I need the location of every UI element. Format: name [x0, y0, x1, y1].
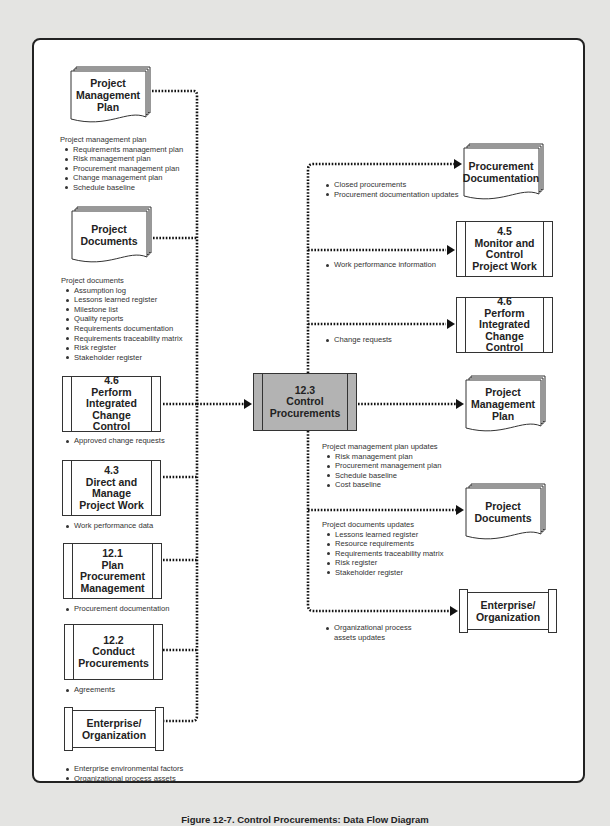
process-title: 4.6 Perform Integrated Change Control [73, 377, 150, 431]
process-title: 12.1 Plan Procurement Management [74, 544, 151, 598]
label-list-item: Schedule baseline [327, 471, 441, 481]
document-title: Project Management Plan [465, 380, 541, 428]
label-list: Approved change requests [62, 436, 165, 446]
label-list: Agreements [62, 685, 115, 695]
output-label-change-requests: Change requests [322, 335, 392, 345]
label-list: Work performance information [322, 260, 436, 270]
label-list-item: Risk management plan [65, 154, 183, 164]
label-list-item: Change management plan [65, 173, 183, 183]
label-list-item: Requirements documentation [66, 324, 182, 334]
document-title: Project Documents [465, 488, 541, 536]
central-process-control-procurements: 12.3 Control Procurements [253, 373, 357, 431]
label-heading: Project documents updates [322, 520, 443, 530]
label-list-item: Risk management plan [327, 452, 441, 462]
label-list-item: Lessons learned register [327, 530, 443, 540]
entity-title: Enterprise/ Organization [469, 589, 547, 633]
label-list-item: Procurement documentation updates [326, 190, 459, 200]
label-list: Lessons learned registerResource require… [322, 530, 443, 578]
input-project-management-plan: Project Management Plan [70, 65, 150, 125]
label-heading: Project management plan updates [322, 442, 441, 452]
label-list-item: Schedule baseline [65, 183, 183, 193]
process-title: 4.3 Direct and Manage Project Work [73, 461, 150, 515]
entity-title: Enterprise/ Organization [74, 707, 154, 751]
input-label-enterprise-factors: Enterprise environmental factorsOrganiza… [62, 764, 183, 783]
label-list-item: Milestone list [66, 305, 182, 315]
label-heading: Project management plan [60, 135, 183, 145]
label-list-item: Cost baseline [327, 480, 441, 490]
input-label-procurement-documentation: Procurement documentation [62, 604, 169, 614]
label-list-item: Quality reports [66, 314, 182, 324]
label-list-item: Requirements management plan [65, 145, 183, 155]
central-process-label: 12.3 Control Procurements [270, 385, 341, 420]
label-list: Assumption logLessons learned registerMi… [61, 286, 182, 363]
output-project-management-plan: Project Management Plan [465, 374, 545, 434]
label-list-item: Work performance information [326, 260, 436, 270]
label-list-item: Change requests [326, 335, 392, 345]
output-label-organizational-process-assets-updates: Organizational process assets updates [322, 623, 412, 642]
output-enterprise-organization: Enterprise/ Organization [459, 589, 557, 633]
label-list-item: Closed procurements [326, 180, 459, 190]
label-list: Requirements management planRisk managem… [60, 145, 183, 193]
label-list-item: Organizational process assets [66, 774, 183, 784]
input-process-conduct-procurements: 12.2 Conduct Procurements [64, 624, 163, 680]
output-process-perform-integrated-change-control: 4.6 Perform Integrated Change Control [456, 297, 553, 353]
output-label-project-management-plan-updates: Project management plan updatesRisk mana… [322, 442, 441, 490]
input-label-approved-change-requests: Approved change requests [62, 436, 165, 446]
document-title: Project Management Plan [70, 71, 146, 119]
central-process-title: 12.3 Control Procurements [264, 374, 346, 430]
input-label-project-management-plan: Project management planRequirements mana… [60, 135, 183, 193]
document-title: Project Documents [71, 211, 147, 259]
input-process-perform-integrated-change-control: 4.6 Perform Integrated Change Control [62, 376, 161, 432]
output-label-work-performance-information: Work performance information [322, 260, 436, 270]
label-list-item: Stakeholder register [327, 568, 443, 578]
label-list: Work performance data [62, 521, 153, 531]
output-procurement-documentation: Procurement Documentation [463, 142, 543, 202]
output-label-procurement-documentation: Closed procurementsProcurement documenta… [322, 180, 459, 199]
label-list-item: Lessons learned register [66, 295, 182, 305]
label-list-item: Procurement management plan [65, 164, 183, 174]
label-list-item: Requirements traceability matrix [66, 334, 182, 344]
process-title: 12.2 Conduct Procurements [75, 625, 152, 679]
label-list-item: Assumption log [66, 286, 182, 296]
label-list: Closed procurementsProcurement documenta… [322, 180, 459, 199]
label-list: Change requests [322, 335, 392, 345]
label-list: Enterprise environmental factorsOrganiza… [62, 764, 183, 783]
label-list-item: Enterprise environmental factors [66, 764, 183, 774]
label-list: Organizational process assets updates [322, 623, 412, 642]
label-list-item: Approved change requests [66, 436, 165, 446]
input-label-work-performance-data: Work performance data [62, 521, 153, 531]
label-list-item: Work performance data [66, 521, 153, 531]
label-list-item: Agreements [66, 685, 115, 695]
output-project-documents: Project Documents [465, 482, 545, 542]
input-label-project-documents: Project documentsAssumption logLessons l… [61, 276, 182, 362]
label-list-item: Resource requirements [327, 539, 443, 549]
process-title: 4.6 Perform Integrated Change Control [467, 298, 542, 352]
output-process-monitor-and-control-project-work: 4.5 Monitor and Control Project Work [456, 221, 553, 277]
input-process-direct-and-manage-project-work: 4.3 Direct and Manage Project Work [62, 460, 161, 516]
input-process-plan-procurement-management: 12.1 Plan Procurement Management [63, 543, 162, 599]
label-list: Risk management planProcurement manageme… [322, 452, 441, 490]
input-enterprise-organization: Enterprise/ Organization [64, 707, 164, 751]
input-project-documents: Project Documents [71, 205, 151, 265]
label-list: Procurement documentation [62, 604, 169, 614]
label-heading: Project documents [61, 276, 182, 286]
label-list-item: Procurement management plan [327, 461, 441, 471]
process-title: 4.5 Monitor and Control Project Work [467, 222, 542, 276]
output-label-project-documents-updates: Project documents updatesLessons learned… [322, 520, 443, 578]
label-list-item: Organizational process assets updates [326, 623, 412, 642]
figure-caption: Figure 12-7. Control Procurements: Data … [0, 814, 610, 825]
label-list-item: Procurement documentation [66, 604, 169, 614]
label-list-item: Risk register [327, 558, 443, 568]
document-title: Procurement Documentation [463, 148, 539, 196]
label-list-item: Requirements traceability matrix [327, 549, 443, 559]
label-list-item: Risk register [66, 343, 182, 353]
input-label-agreements: Agreements [62, 685, 115, 695]
label-list-item: Stakeholder register [66, 353, 182, 363]
